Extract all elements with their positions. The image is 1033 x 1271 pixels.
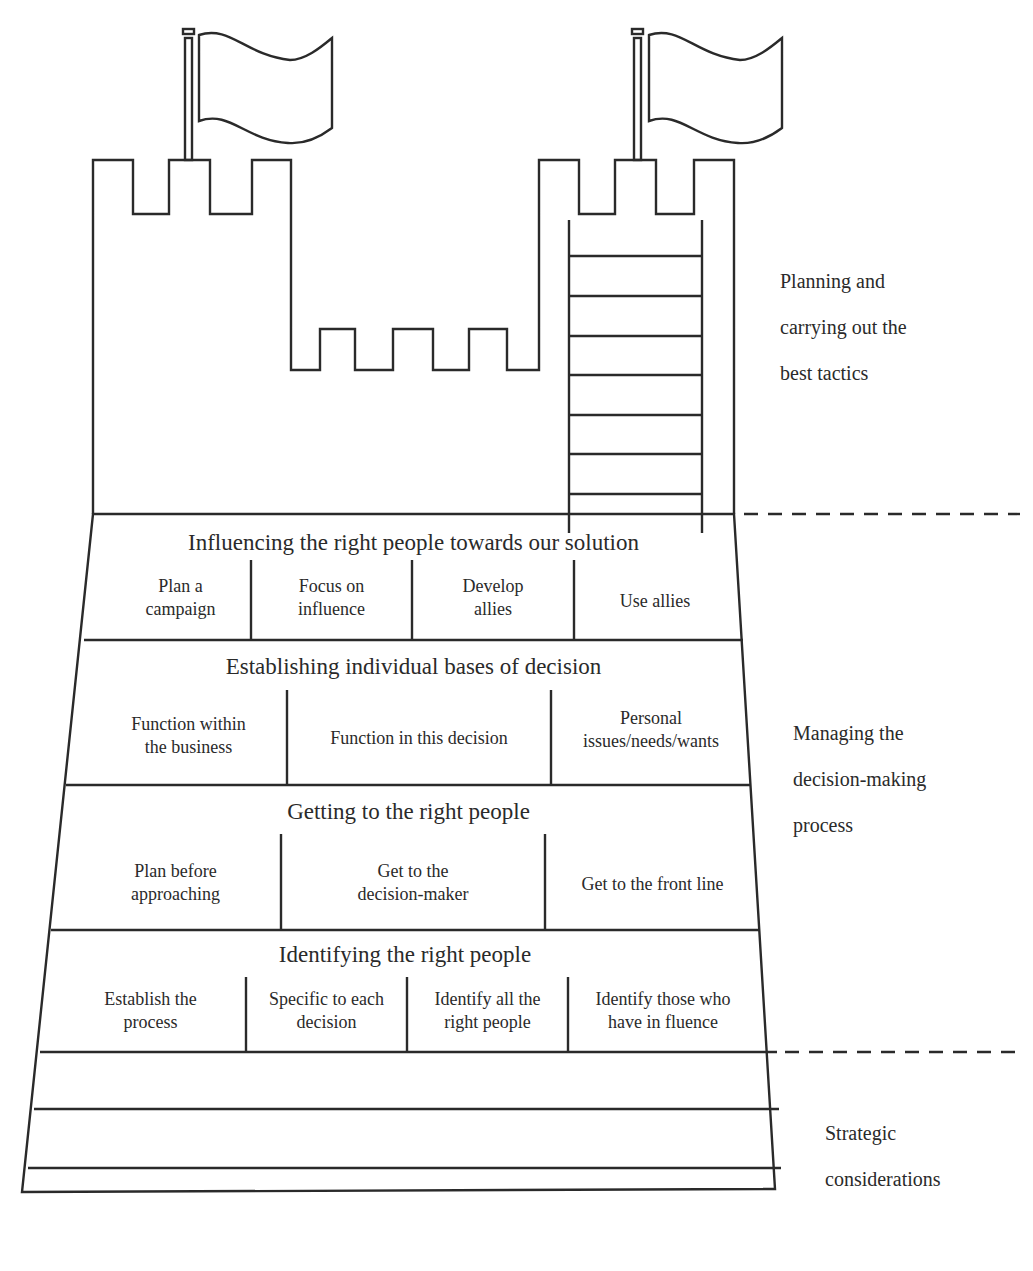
tier-2-cell-1: Function withinthe business — [90, 713, 287, 760]
ladder-icon — [569, 220, 702, 533]
side-label-strategic: Strategic considerations — [825, 1110, 941, 1202]
side-label-decision-process: Managing the decision-making process — [793, 710, 926, 848]
tier-3-cell-2: Get to thedecision-maker — [281, 860, 545, 907]
tier-1-title: Influencing the right people towards our… — [93, 528, 734, 558]
tier-4-cell-1: Establish theprocess — [55, 988, 246, 1035]
flag-icon-right — [632, 29, 782, 160]
tier-1-cell-2: Focus oninfluence — [251, 575, 412, 622]
flag-icon-left — [183, 29, 332, 160]
tier-2-title: Establishing individual bases of decisio… — [84, 652, 743, 682]
castle-diagram — [0, 0, 1033, 1271]
tier-4-cell-4: Identify those whohave in fluence — [568, 988, 758, 1035]
tier-3-cell-1: Plan beforeapproaching — [70, 860, 281, 907]
tier-1-cell-3: Developallies — [412, 575, 574, 622]
tier-2-cell-3: Personalissues/needs/wants — [551, 707, 751, 754]
tier-1-cell-4: Use allies — [574, 590, 736, 613]
tier-4-cell-3: Identify all theright people — [407, 988, 568, 1035]
tier-4-title: Identifying the right people — [51, 940, 759, 970]
tier-4-cell-2: Specific to eachdecision — [246, 988, 407, 1035]
tier-3-title: Getting to the right people — [66, 797, 751, 827]
tier-2-cell-2: Function in this decision — [287, 727, 551, 750]
side-label-tactics: Planning and carrying out the best tacti… — [780, 258, 907, 396]
tier-1-cell-1: Plan acampaign — [110, 575, 251, 622]
tier-3-cell-3: Get to the front line — [545, 873, 760, 896]
